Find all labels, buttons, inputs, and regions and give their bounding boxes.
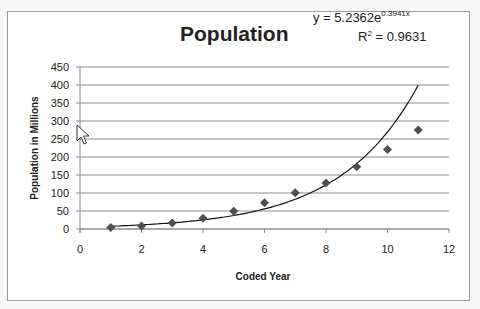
equation-base: y = 5.2362e bbox=[313, 10, 381, 25]
y-tick-label: 250 bbox=[44, 133, 69, 145]
data-point-diamond bbox=[260, 198, 269, 207]
data-point-diamond bbox=[414, 126, 423, 135]
y-tick-label: 50 bbox=[44, 205, 69, 217]
data-point-diamond bbox=[383, 145, 392, 154]
x-tick-label: 2 bbox=[138, 243, 144, 255]
x-tick-label: 6 bbox=[261, 243, 267, 255]
y-axis-title: Population in Millions bbox=[29, 96, 40, 199]
y-tick-label: 450 bbox=[44, 61, 69, 73]
chart-title: Population bbox=[180, 22, 289, 46]
y-tick-label: 400 bbox=[44, 79, 69, 91]
x-tick-label: 8 bbox=[323, 243, 329, 255]
plot-area[interactable] bbox=[0, 0, 480, 309]
trendline-equation: y = 5.2362e0.3941x bbox=[313, 10, 410, 25]
x-tick-label: 10 bbox=[381, 243, 393, 255]
y-tick-label: 350 bbox=[44, 97, 69, 109]
data-point-diamond bbox=[168, 218, 177, 227]
data-point-diamond bbox=[106, 223, 115, 232]
r2-value: = 0.9631 bbox=[372, 29, 427, 44]
y-tick-label: 300 bbox=[44, 115, 69, 127]
data-point-diamond bbox=[352, 162, 361, 171]
y-tick-label: 200 bbox=[44, 151, 69, 163]
y-tick-label: 150 bbox=[44, 169, 69, 181]
x-tick-label: 0 bbox=[77, 243, 83, 255]
data-point-diamond bbox=[291, 188, 300, 197]
y-tick-label: 100 bbox=[44, 187, 69, 199]
r-squared-label: R2 = 0.9631 bbox=[358, 29, 426, 44]
mouse-cursor-icon bbox=[76, 124, 90, 146]
data-point-diamond bbox=[199, 214, 208, 223]
x-tick-label: 4 bbox=[200, 243, 206, 255]
equation-exponent: 0.3941x bbox=[381, 9, 409, 18]
x-tick-label: 12 bbox=[443, 243, 455, 255]
x-axis-title: Coded Year bbox=[236, 271, 291, 282]
y-tick-label: 0 bbox=[44, 223, 69, 235]
r2-letter: R bbox=[358, 29, 367, 44]
